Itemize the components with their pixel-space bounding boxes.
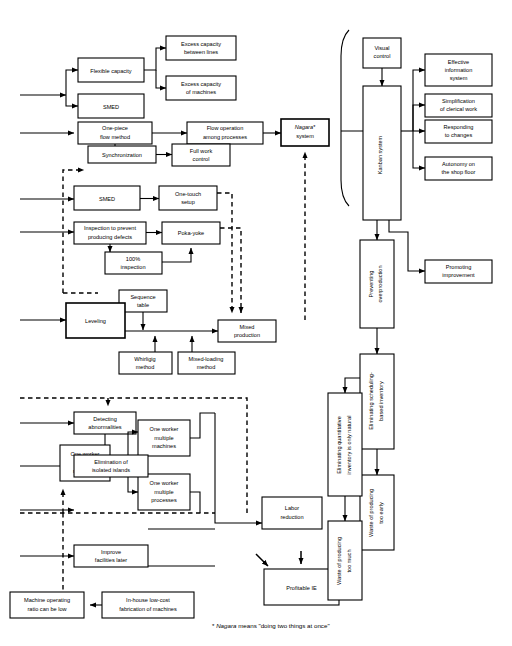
label-100-inspection-2: inspection — [120, 264, 145, 270]
label-autonomy-2: the shop floor — [442, 169, 476, 175]
box-labor-reduction — [262, 497, 322, 529]
label-preventing-overproduction-1: Preventing — [368, 271, 374, 298]
label-autonomy-1: Autonomy on — [442, 161, 475, 167]
box-eliminating-quantitative-inventory — [328, 393, 362, 496]
box-waste-of-producing-too-early — [360, 475, 394, 550]
flexible-capacity-group: Flexible capacity SMED Excess capacity b… — [66, 36, 236, 118]
label-elim-quantitative-1: Eliminating quantitative — [336, 416, 342, 474]
label-owmp-3: processes — [151, 497, 177, 503]
label-simplification-1: Simplification — [442, 98, 475, 104]
label-synchronization: Synchronization — [102, 152, 142, 158]
label-in-house-1: In-house low-cost — [126, 597, 170, 603]
label-inspection-prevent-1: Inspection to prevent — [84, 225, 136, 231]
label-responding-2: to changes — [445, 132, 473, 138]
kanban-column-group: Visual control Kanban system Effective i… — [328, 30, 492, 600]
label-mixed-production-2: production — [234, 332, 260, 338]
label-promoting-1: Promoting — [446, 264, 472, 270]
label-whirligig-2: method — [136, 364, 155, 370]
label-owmm-right-1: One worker — [150, 426, 179, 432]
label-flow-operation-2: among processes — [203, 134, 247, 140]
label-detecting-abnormalities-1: Detecting — [93, 416, 117, 422]
label-owmp-1: One worker — [150, 480, 179, 486]
label-inspection-prevent-2: producing defects — [88, 234, 132, 240]
label-whirligig-1: Whirligig — [134, 356, 155, 362]
box-excess-capacity-of-machines — [166, 76, 236, 100]
leveling-group: Sequence table Leveling Mixed production… — [66, 290, 276, 374]
label-detecting-abnormalities-2: abnormalities — [88, 424, 121, 430]
label-smed-top: SMED — [103, 104, 119, 110]
label-leveling: Leveling — [85, 318, 106, 324]
label-elim-quantitative-2: inventory is only natural — [346, 416, 352, 475]
label-waste-too-early-1: Waste of producing — [368, 489, 374, 537]
label-visual-control-1: Visual — [374, 45, 389, 51]
label-machine-operating-1: Machine operating — [24, 597, 70, 603]
label-excess-capacity-of-machines-2: of machines — [186, 89, 216, 95]
label-kanban-system: Kanban system — [377, 135, 383, 174]
label-promoting-2: improvement — [442, 272, 475, 278]
box-waste-of-producing-too-much — [328, 521, 362, 600]
footnote-text: * Nagara means "doing two things at once… — [212, 622, 330, 629]
label-one-touch-setup-1: One-touch — [175, 191, 201, 197]
label-smed-mid: SMED — [99, 196, 115, 202]
label-full-work-control-2: control — [193, 156, 210, 162]
process-flow-diagram: Flexible capacity SMED Excess capacity b… — [0, 0, 512, 646]
label-visual-control-2: control — [374, 53, 391, 59]
label-waste-too-early-2: too early — [378, 502, 384, 524]
label-responding-1: Responding — [444, 124, 474, 130]
label-sequence-table-2: table — [137, 302, 149, 308]
label-labor-reduction-1: Labor — [285, 505, 299, 511]
footnote-group: * Nagara means "doing two things at once… — [212, 622, 330, 629]
label-owmm-right-3: machines — [152, 443, 176, 449]
label-100-inspection-1: 100% — [126, 256, 140, 262]
label-mixed-loading-1: Mixed-loading — [189, 356, 224, 362]
label-waste-too-much-1: Waste of producing — [336, 537, 342, 585]
label-machine-operating-2: ratio can be low — [27, 606, 67, 612]
label-full-work-control-1: Full work — [190, 148, 213, 154]
label-improve-facilities-1: Improve — [101, 549, 121, 555]
label-excess-capacity-between-lines-1: Excess capacity — [181, 41, 221, 47]
box-eliminating-scheduling-based-inventory — [360, 354, 394, 449]
label-effective-info-3: system — [450, 75, 468, 81]
label-nagara-2: system — [296, 133, 314, 139]
label-sequence-table-1: Sequence — [130, 294, 155, 300]
label-poka-yoke: Poka-yoke — [178, 230, 204, 236]
label-flexible-capacity: Flexible capacity — [90, 68, 132, 74]
footnote-rest: means "doing two things at once" — [236, 622, 329, 629]
label-excess-capacity-between-lines-2: between lines — [184, 49, 218, 55]
label-profitable-ie: Profitable IE — [286, 585, 317, 591]
label-owmm-right-2: multiple — [154, 435, 173, 441]
label-excess-capacity-of-machines-1: Excess capacity — [181, 81, 221, 87]
label-flow-operation-1: Flow operation — [207, 125, 244, 131]
label-elim-scheduling-1: Eliminating scheduling- — [368, 372, 374, 430]
label-one-piece-flow-1: One-piece — [102, 125, 128, 131]
label-mixed-production-1: Mixed — [240, 324, 255, 330]
label-waste-too-much-2: too much — [346, 549, 352, 572]
label-labor-reduction-2: reduction — [280, 514, 303, 520]
label-elim-islands-2: isolated islands — [92, 467, 130, 473]
label-nagara-1: Nagara* — [295, 124, 316, 130]
label-one-piece-flow-2: flow method — [100, 134, 130, 140]
label-elim-scheduling-2: based inventory — [378, 381, 384, 421]
label-elim-islands-1: Elimination of — [94, 459, 128, 465]
label-in-house-2: fabrication of machines — [119, 606, 177, 612]
label-one-touch-setup-2: setup — [181, 199, 195, 205]
label-improve-facilities-2: facilities later — [95, 557, 127, 563]
label-effective-info-2: information — [445, 67, 473, 73]
one-piece-flow-group: One-piece flow method Flow operation amo… — [78, 119, 329, 320]
label-mixed-loading-2: method — [197, 364, 216, 370]
label-effective-info-1: Effective — [448, 59, 469, 65]
label-preventing-overproduction-2: overproduction — [377, 265, 383, 302]
label-owmp-2: multiple — [154, 489, 173, 495]
label-simplification-2: of clerical work — [440, 106, 477, 112]
box-excess-capacity-between-lines — [166, 36, 236, 60]
footnote-italic-word: Nagara — [216, 622, 237, 629]
